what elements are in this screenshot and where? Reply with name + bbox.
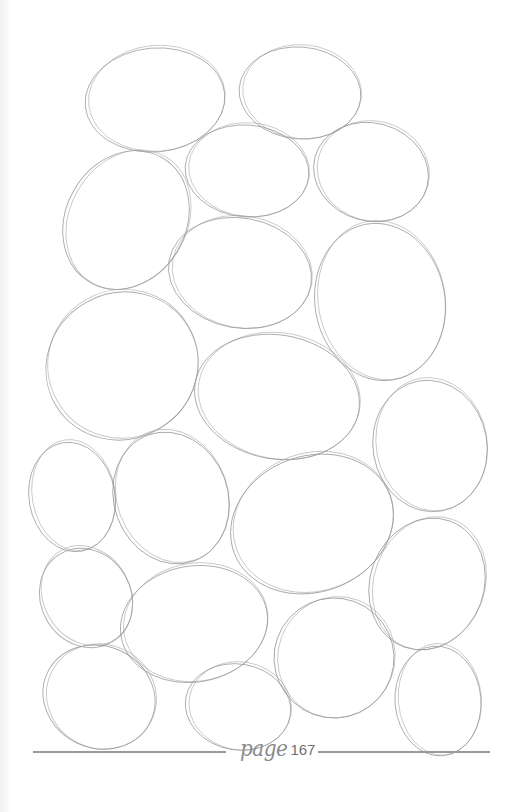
oval-shape [18,262,226,468]
oval-stroke [20,435,124,558]
oval-stroke [394,640,486,759]
oval-stroke [41,127,215,312]
oval-stroke [257,581,411,735]
oval-stroke [302,213,457,391]
oval-shape [38,125,216,312]
oval-stroke [235,42,365,144]
oval-stroke [390,642,485,759]
oval-shape [390,640,486,760]
oval-shape [184,319,370,472]
oval-stroke [29,626,174,767]
oval-shape [351,499,505,666]
footer-rule-left [33,751,226,753]
oval-stroke [26,627,172,768]
oval-pattern-artwork [0,0,518,812]
oval-stroke [239,40,366,144]
oval-stroke [213,429,413,614]
oval-shape [302,107,441,234]
oval-stroke [19,264,225,467]
oval-stroke [354,500,505,666]
footer-rule-right [318,751,490,753]
oval-stroke [21,262,226,466]
oval-stroke [163,204,321,339]
oval-shape [302,210,458,391]
oval-stroke [114,551,277,692]
oval-shape [362,369,498,521]
oval-stroke [261,580,413,735]
oval-stroke [365,369,498,520]
oval-stroke [111,554,277,694]
oval-stroke [302,110,439,235]
oval-shape [181,117,313,222]
oval-stroke [188,320,370,472]
oval-shape [210,429,414,616]
oval-shape [257,579,412,735]
oval-stroke [211,432,414,617]
oval-shape [235,39,365,144]
oval-stroke [184,322,369,473]
oval-stroke [23,433,124,558]
oval-stroke [181,120,313,222]
oval-stroke [185,118,314,222]
oval-shape [81,40,230,158]
oval-stroke [362,371,497,521]
oval-shape [20,433,125,559]
oval-stroke [306,108,441,234]
oval-stroke [81,42,230,158]
page-word: page [240,735,287,761]
page-number: 167 [290,741,315,758]
oval-stroke [305,210,458,390]
page-number-footer: page 167 [240,736,315,766]
oval-shape [20,529,151,665]
oval-stroke [351,502,504,667]
